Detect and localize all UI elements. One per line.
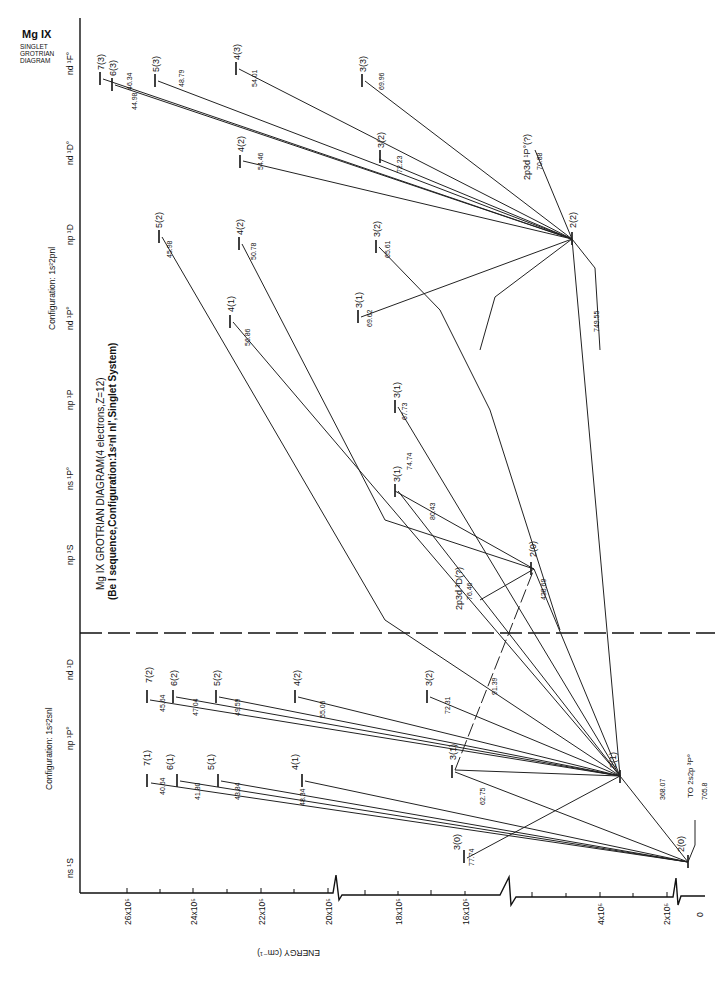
level-3-0: 3(0)	[452, 834, 462, 850]
transition-lines	[103, 69, 695, 862]
col-nd-1Do: nd ¹D°	[65, 141, 75, 165]
level-6-1a: 6(1)	[165, 754, 175, 770]
wl-4704: 47.04	[192, 698, 199, 716]
wl-4598: 45.98	[166, 240, 173, 258]
level-3-3: 3(3)	[358, 56, 368, 72]
level-5-1a: 5(1)	[206, 754, 216, 770]
wl-5686: 56.86	[244, 328, 251, 346]
wl-5401: 54.01	[251, 69, 258, 87]
level-4-2f: 4(2)	[236, 136, 246, 152]
wl-9139: 91.39	[491, 677, 498, 695]
annotation-to-triplet: TO 2s2p ³P°	[686, 754, 695, 798]
wl-4564: 45.64	[159, 694, 166, 712]
ion-label: Mg IX	[22, 28, 52, 40]
main-title: Mg IX GROTRIAN DIAGRAM(4 electrons,Z=12)	[95, 377, 106, 590]
col-np-1S: np ¹S	[65, 544, 75, 565]
level-3-2a: 3(2)	[424, 670, 434, 686]
level-4-1d: 4(1)	[226, 296, 236, 312]
col-ns-1Po: ns ¹P°	[65, 467, 75, 490]
col-nd-1Fo: nd ¹F°	[65, 52, 75, 75]
wl-74955: 749.55	[593, 310, 600, 332]
level-6-2a: 6(2)	[169, 670, 179, 686]
wl-7088: 70.88	[536, 152, 543, 170]
level-4-1a: 4(1)	[290, 754, 300, 770]
wl-6773: 67.73	[401, 402, 408, 420]
col-nd-1D: nd ¹D	[65, 659, 75, 680]
wl-7474: 74.74	[406, 452, 413, 470]
wl-4180: 41.80	[194, 782, 201, 800]
tick-26e5: 26x10⁵	[123, 898, 133, 925]
col-ns-1S: ns ¹S	[65, 858, 75, 878]
config-label-2snl: Configuration: 1s²2snl	[44, 707, 54, 790]
subtitle-line-1: SINGLET	[20, 43, 48, 50]
level-7-2a: 7(2)	[144, 667, 154, 683]
wl-4498: 44.98	[131, 92, 138, 110]
wl-5078: 50.78	[250, 242, 257, 260]
config-label-2pnl: Configuration: 1s²2pnl	[47, 247, 57, 330]
wl-6561: 65.61	[384, 240, 391, 258]
col-np-1Po: np ¹P°	[65, 726, 75, 750]
level-3-1c: 3(1)	[392, 382, 402, 398]
tick-18e5: 18x10⁵	[394, 898, 404, 925]
wl-4384: 43.84	[234, 782, 241, 800]
tick-4e5: 4x10⁵	[596, 903, 606, 925]
tick-16e5: 16x10⁵	[461, 898, 471, 925]
wl-36807: 368.07	[659, 778, 666, 800]
wl-6275: 62.75	[479, 787, 486, 805]
wl-4634: 46.34	[126, 72, 133, 90]
wl-7231: 72.31	[444, 696, 451, 714]
energy-levels	[100, 62, 688, 868]
tick-24e5: 24x10⁵	[189, 898, 199, 925]
subtitle-line-3: DIAGRAM	[20, 57, 50, 64]
level-4-2e: 4(2)	[235, 219, 245, 235]
wl-4959: 49.59	[234, 698, 241, 716]
col-np-1P: np ¹P	[65, 389, 75, 410]
wl-7646: 76.46	[466, 582, 473, 600]
tick-2e5: 2x10⁵	[662, 903, 672, 925]
subtitle-line-2: GROTRIAN	[20, 50, 55, 57]
wl-6962: 69.62	[366, 309, 373, 327]
level-5-3: 5(3)	[151, 56, 161, 72]
main-subtitle: (Be I sequence,Configuration:1s²nl nl',S…	[107, 343, 118, 600]
tick-20e5: 20x10⁵	[324, 898, 334, 925]
level-2-2: 2(2)	[568, 212, 578, 228]
annotation-perturber-1: 2p3d ³D(?)	[454, 567, 464, 610]
wl-4834: 48.34	[299, 788, 306, 806]
level-5-2e: 5(2)	[154, 212, 164, 228]
energy-axis: 0 2x10⁵ 4x10⁵ 16x10⁵ 18x10⁵ 20x10⁵ 22x10…	[80, 875, 705, 958]
tick-22e5: 22x10⁵	[257, 898, 267, 925]
level-4-2a: 4(2)	[292, 670, 302, 686]
level-3-1d: 3(1)	[354, 292, 364, 308]
wl-43869: 438.69	[540, 578, 547, 600]
level-4-3: 4(3)	[232, 44, 242, 60]
wl-5506: 55.06	[319, 700, 326, 718]
wl-8043: 80.43	[429, 502, 436, 520]
wl-7774: 77.74	[468, 848, 475, 866]
wl-7058: 705.8	[701, 782, 708, 800]
col-nd-1Po: nd ¹P°	[65, 306, 75, 330]
level-3-1b: 3(1)	[392, 466, 402, 482]
level-6-3: 6(3)	[108, 60, 118, 76]
wl-5446: 54.46	[257, 152, 264, 170]
wl-6996: 69.96	[378, 72, 385, 90]
grotrian-diagram: Mg IX SINGLET GROTRIAN DIAGRAM Mg IX GRO…	[0, 0, 715, 984]
axis-label: ENERGY (cm⁻¹)	[257, 948, 320, 958]
level-7-1a: 7(1)	[142, 750, 152, 766]
annotation-perturber-2: 2p3d ¹P°(?)	[522, 134, 532, 180]
wl-7223: 72.23	[396, 155, 403, 173]
tick-0: 0	[695, 912, 705, 917]
wl-4064: 40.64	[159, 777, 166, 795]
level-2-0: 2(0)	[676, 836, 686, 852]
col-np-1D: np ¹D	[65, 224, 75, 245]
level-3-2e: 3(2)	[372, 221, 382, 237]
level-7-3: 7(3)	[96, 54, 106, 70]
level-5-2a: 5(2)	[212, 670, 222, 686]
wl-4879: 48.79	[178, 69, 185, 87]
